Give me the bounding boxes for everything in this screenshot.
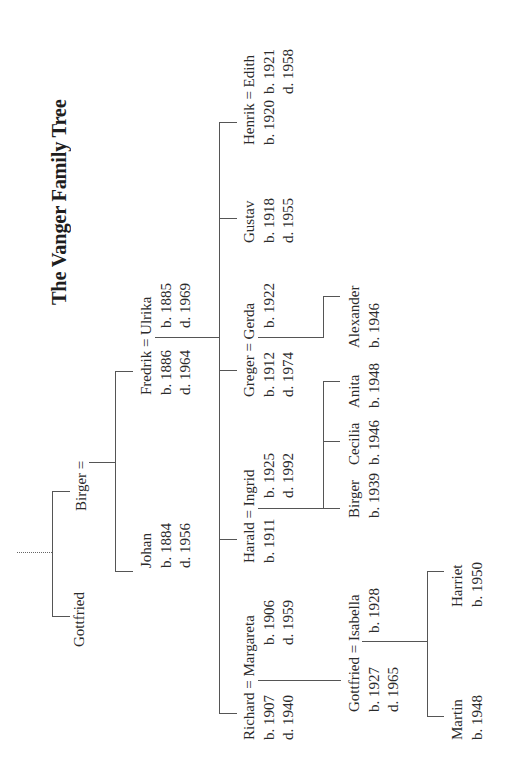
- birth-year: b. 1921: [260, 49, 280, 94]
- gen4-tick-harriet: [427, 571, 444, 572]
- person-name: Birger =: [72, 461, 92, 511]
- death-year: d. 1955: [279, 198, 299, 243]
- person-anita: Anita b. 1948: [345, 363, 384, 408]
- spouse-isabella-dates: b. 1928: [365, 588, 385, 633]
- birth-year: b. 1946: [365, 286, 385, 348]
- person-name: Johan: [137, 523, 157, 568]
- gen3-tick-birger: [323, 508, 340, 509]
- harald-children-line: [323, 382, 324, 509]
- death-year: d. 1965: [384, 594, 404, 712]
- spouse-ingrid-dates: b. 1925 d. 1992: [260, 453, 299, 498]
- spouse-gerda-dates: b. 1922: [260, 283, 280, 328]
- gen0-tick-birger: [52, 491, 70, 492]
- couple-names: Fredrik = Ulrika: [137, 297, 157, 395]
- gottfried-marriage-line: [362, 641, 427, 642]
- greger-children-line: [323, 297, 324, 338]
- gen3-tick-alexander: [323, 296, 340, 297]
- death-year: d. 1959: [279, 600, 299, 645]
- death-year: d. 1958: [279, 49, 299, 94]
- gottfried-children-line: [427, 572, 428, 717]
- gen2-tick-henrik: [219, 122, 237, 123]
- person-name: Martin: [448, 695, 468, 740]
- spouse-margareta-dates: b. 1906 d. 1959: [260, 600, 299, 645]
- birth-year: b. 1906: [260, 600, 280, 645]
- person-cecilia: Cecilia b. 1946: [345, 420, 384, 465]
- couple-names: Henrik = Edith: [240, 55, 260, 145]
- richard-marriage-line: [258, 680, 341, 681]
- gen3-tick-anita: [323, 381, 340, 382]
- couple-names: Harald = Ingrid: [240, 470, 260, 563]
- gen0-sibling-line: [52, 492, 53, 617]
- person-alexander: Alexander b. 1946: [345, 286, 384, 348]
- couple-names: Gottfried = Isabella: [345, 594, 365, 712]
- person-name: Anita: [345, 363, 365, 408]
- greger-marriage-line: [258, 337, 323, 338]
- gen1-tick-fredrik: [115, 371, 133, 372]
- birth-year: b. 1939: [365, 473, 385, 518]
- person-birger-jr: Birger b. 1939: [345, 473, 384, 518]
- death-year: d. 1969: [176, 283, 196, 328]
- person-birger-sr: Birger =: [72, 461, 92, 511]
- diagram-title: The Vanger Family Tree: [46, 82, 72, 305]
- gen2-tick-richard: [219, 713, 237, 714]
- death-year: d. 1956: [176, 523, 196, 568]
- person-name: Gottfried: [70, 592, 90, 647]
- ancestor-dotted-connector: [17, 552, 52, 553]
- gen2-tick-gustav: [219, 218, 237, 219]
- birger-descent-line: [89, 462, 115, 463]
- gen4-tick-martin: [427, 716, 444, 717]
- birth-year: b. 1922: [260, 283, 280, 328]
- family-tree-diagram: The Vanger Family Tree Gottfried Birger …: [0, 0, 516, 775]
- birth-year: b. 1925: [260, 453, 280, 498]
- birth-year: b. 1948: [365, 363, 385, 408]
- birth-year: b. 1948: [468, 695, 488, 740]
- gen1-sibling-line: [115, 372, 116, 572]
- person-name: Birger: [345, 473, 365, 518]
- person-name: Harriet: [448, 562, 468, 607]
- gen2-tick-harald: [219, 539, 237, 540]
- spouse-edith-dates: b. 1921 d. 1958: [260, 49, 299, 94]
- gen1-tick-johan: [115, 571, 133, 572]
- birth-year: b. 1950: [468, 562, 488, 607]
- birth-year: b. 1918: [260, 198, 280, 243]
- couple-names: Richard = Margareta: [240, 615, 260, 740]
- fredrik-marriage-line: [155, 337, 219, 338]
- person-harriet: Harriet b. 1950: [448, 562, 487, 607]
- birth-year: b. 1928: [365, 588, 385, 633]
- person-gustav: Gustav b. 1918 d. 1955: [240, 198, 299, 243]
- birth-year: b. 1884: [157, 523, 177, 568]
- birth-year: b. 1885: [157, 283, 177, 328]
- gen3-tick-cecilia: [323, 441, 340, 442]
- gen0-tick-gottfried: [52, 616, 70, 617]
- gen2-tick-greger: [219, 370, 237, 371]
- death-year: d. 1974: [279, 303, 299, 397]
- harald-marriage-line: [258, 508, 323, 509]
- person-gottfried-sr: Gottfried: [70, 592, 90, 647]
- death-year: d. 1992: [279, 453, 299, 498]
- person-johan: Johan b. 1884 d. 1956: [137, 523, 196, 568]
- spouse-ulrika-dates: b. 1885 d. 1969: [157, 283, 196, 328]
- couple-names: Greger = Gerda: [240, 303, 260, 397]
- gen2-sibling-line: [219, 123, 220, 714]
- person-name: Gustav: [240, 198, 260, 243]
- person-martin: Martin b. 1948: [448, 695, 487, 740]
- birth-year: b. 1946: [365, 420, 385, 465]
- person-name: Cecilia: [345, 420, 365, 465]
- person-name: Alexander: [345, 286, 365, 348]
